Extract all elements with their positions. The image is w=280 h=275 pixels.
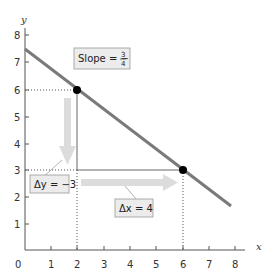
slope-denominator: 4: [121, 60, 126, 68]
x-tick-label: 7: [206, 259, 212, 270]
x-tick-label: 6: [180, 259, 186, 270]
y-tick-label: 6: [14, 85, 20, 96]
delta-y-label: Δy = −3: [34, 179, 76, 190]
y-axis-label: y: [20, 14, 27, 25]
slope-chart: 0 1 2 3 4 5 6 7 8 1 2 3 4 5 6 7 8 x y Sl: [0, 0, 280, 275]
delta-x-annotation: Δx = 4: [115, 199, 153, 217]
y-tick-label: 5: [14, 112, 20, 123]
dx-leader: [125, 186, 137, 200]
y-tick-label: 3: [14, 165, 20, 176]
delta-y-arrow: [59, 98, 76, 165]
point-6-3: [179, 166, 187, 174]
slope-annotation: Slope = − 3 4: [74, 48, 130, 69]
slope-numerator: 3: [121, 51, 125, 59]
y-tick-label: 7: [14, 57, 20, 68]
x-axis-label: x: [256, 241, 262, 252]
x-tick-label: 1: [48, 259, 54, 270]
y-ticks: [25, 35, 29, 224]
x-tick-label: 2: [74, 259, 80, 270]
x-tick-label: 5: [153, 259, 159, 270]
x-tick-label: 8: [232, 259, 238, 270]
point-2-6: [73, 86, 81, 94]
x-tick-label: 3: [101, 259, 107, 270]
y-tick-label: 1: [14, 219, 20, 230]
delta-y-annotation: Δy = −3: [30, 175, 76, 193]
delta-x-label: Δx = 4: [119, 203, 153, 214]
y-tick-label: 8: [14, 30, 20, 41]
y-tick-label: 2: [14, 192, 20, 203]
delta-x-arrow: [81, 174, 178, 191]
x-tick-label: 0: [15, 259, 21, 270]
x-tick-label: 4: [127, 259, 133, 270]
x-ticks: [51, 246, 235, 250]
y-tick-label: 4: [14, 139, 20, 150]
